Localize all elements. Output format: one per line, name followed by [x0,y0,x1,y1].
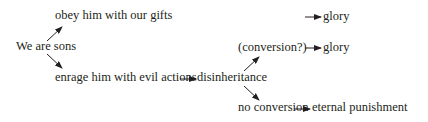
node-obey: obey him with our gifts [55,8,172,22]
node-eternal-punishment: eternal punishment [312,100,407,114]
flow-diagram: obey him with our gifts We are sons enra… [0,0,428,122]
node-enrage: enrage him with evil actions [55,70,197,84]
node-conversion: (conversion?) [238,40,307,54]
node-glory-mid: glory [323,40,349,54]
arrow-disinheritance-to-conversion [244,57,259,71]
node-disinheritance: disinheritance [197,70,267,84]
node-no-conversion: no conversion [238,100,308,114]
arrow-root-to-enrage [47,54,62,68]
node-root: We are sons [16,39,76,53]
arrow-disinheritance-to-no-conversion [244,86,259,100]
node-glory-top: glory [323,9,349,23]
